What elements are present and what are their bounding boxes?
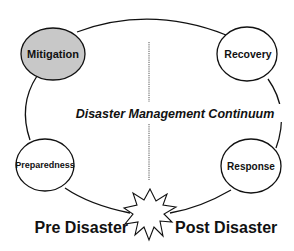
post-disaster-label: Post Disaster bbox=[175, 219, 277, 236]
disaster-continuum-diagram: Mitigation Recovery Preparedness Respons… bbox=[0, 0, 294, 251]
arc-preparedness-mitigation bbox=[25, 76, 37, 140]
node-mitigation: Mitigation bbox=[21, 28, 85, 80]
node-preparedness: Preparedness bbox=[15, 139, 75, 191]
node-recovery: Recovery bbox=[217, 27, 277, 81]
node-response: Response bbox=[221, 139, 281, 193]
pre-disaster-label: Pre Disaster bbox=[35, 219, 128, 236]
arc-starburst-preparedness bbox=[65, 188, 130, 213]
diagram-title: Disaster Management Continuum bbox=[76, 107, 275, 121]
node-label-response: Response bbox=[227, 161, 275, 172]
arc-mitigation-recovery bbox=[77, 19, 226, 35]
arc-response-starburst bbox=[170, 190, 231, 213]
disaster-starburst-icon bbox=[124, 189, 176, 240]
node-label-recovery: Recovery bbox=[224, 48, 271, 60]
node-label-preparedness: Preparedness bbox=[15, 160, 75, 170]
node-label-mitigation: Mitigation bbox=[27, 48, 79, 60]
